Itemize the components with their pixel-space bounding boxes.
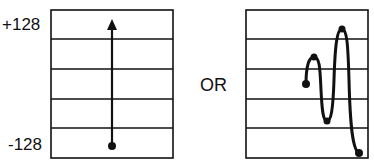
- arrowhead-up-icon: [107, 19, 117, 30]
- top-value-label: +128: [2, 16, 40, 33]
- diagram-canvas: [0, 0, 374, 168]
- right-panel: [246, 10, 368, 158]
- left-panel: [51, 10, 173, 158]
- vertex-dot-icon: [339, 26, 346, 33]
- bottom-value-label: -128: [8, 136, 42, 153]
- oscillating-path-line: [306, 29, 359, 153]
- end-dot-icon: [355, 149, 363, 157]
- vertex-dot-icon: [311, 54, 318, 61]
- start-dot-icon: [108, 142, 116, 150]
- or-separator-label: OR: [200, 76, 227, 94]
- vertex-dot-icon: [324, 118, 331, 125]
- start-dot-icon: [302, 80, 310, 88]
